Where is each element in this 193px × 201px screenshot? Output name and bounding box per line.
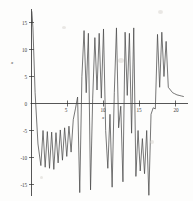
x-axis-title: x xyxy=(101,115,105,120)
y-tick-label-0: 0 xyxy=(25,101,28,107)
y-tick-label-m10: -10 xyxy=(20,155,27,161)
y-tick-label-m5: -5 xyxy=(23,128,28,134)
x-tick-label-5: 5 xyxy=(65,107,68,113)
y-tick-label-15: 15 xyxy=(22,20,27,26)
y-tick-label-m15: -15 xyxy=(20,182,27,188)
y-tick-label-5: 5 xyxy=(25,74,28,80)
chart-figure: 5 10 15 20 15 10 5 0 -5 -10 -15 x x xyxy=(0,0,193,201)
plot-canvas: 5 10 15 20 15 10 5 0 -5 -10 -15 x x xyxy=(0,0,193,201)
y-tick-labels: 15 10 5 0 -5 -10 -15 xyxy=(20,20,27,188)
x-tick-label-15: 15 xyxy=(137,107,142,113)
y-tick-label-10: 10 xyxy=(22,47,27,53)
y-axis-title: x xyxy=(10,60,14,65)
x-tick-label-20: 20 xyxy=(174,107,179,113)
x-tick-labels: 5 10 15 20 xyxy=(65,107,179,113)
